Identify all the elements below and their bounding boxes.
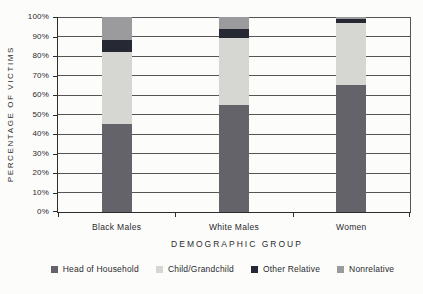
x-category-label-white-males: White Males	[175, 222, 292, 232]
y-tick-label: 60%	[1, 90, 49, 100]
y-tick-label: 50%	[1, 110, 49, 120]
x-category-label-women: Women	[293, 222, 410, 232]
y-tick-mark-80	[53, 56, 58, 57]
y-tick-mark-100	[53, 17, 58, 18]
stacked-bar-chart-figure: PERCENTAGE OF VICTIMS 0%10%20%30%40%50%6…	[0, 0, 423, 294]
bar-segment-white-males-other-relative	[219, 29, 249, 39]
bar-white-males	[219, 17, 249, 212]
x-tick-mark-2	[293, 212, 294, 217]
legend-swatch-other-relative	[251, 266, 258, 273]
legend-label-child-grandchild: Child/Grandchild	[168, 264, 234, 274]
x-tick-mark-1	[175, 212, 176, 217]
bar-women	[336, 17, 366, 212]
legend-label-nonrelative: Nonrelative	[349, 264, 394, 274]
x-tick-mark-0	[58, 212, 59, 217]
legend-item-child-grandchild: Child/Grandchild	[156, 264, 234, 274]
legend-label-head-of-household: Head of Household	[63, 264, 139, 274]
legend-swatch-head-of-household	[51, 266, 58, 273]
y-tick-mark-50	[53, 115, 58, 116]
bar-segment-women-child-grandchild	[336, 23, 366, 85]
y-tick-label: 70%	[1, 71, 49, 81]
y-tick-mark-90	[53, 37, 58, 38]
bar-segment-black-males-head-of-household	[102, 124, 132, 212]
bar-segment-white-males-head-of-household	[219, 105, 249, 212]
y-tick-mark-30	[53, 154, 58, 155]
bar-black-males	[102, 17, 132, 212]
x-category-label-black-males: Black Males	[58, 222, 175, 232]
bar-segment-women-head-of-household	[336, 85, 366, 212]
legend-item-head-of-household: Head of Household	[51, 264, 139, 274]
y-tick-label: 40%	[1, 129, 49, 139]
legend-swatch-child-grandchild	[156, 266, 163, 273]
y-tick-label: 10%	[1, 188, 49, 198]
bar-segment-black-males-other-relative	[102, 40, 132, 52]
y-tick-label: 0%	[1, 207, 49, 217]
y-tick-label: 100%	[1, 12, 49, 22]
x-axis-title: DEMOGRAPHIC GROUP	[57, 239, 417, 249]
bar-segment-white-males-child-grandchild	[219, 38, 249, 104]
legend: Head of HouseholdChild/GrandchildOther R…	[0, 264, 423, 274]
y-tick-label: 30%	[1, 149, 49, 159]
y-tick-mark-20	[53, 173, 58, 174]
bar-segment-white-males-nonrelative	[219, 17, 249, 29]
bar-segment-black-males-child-grandchild	[102, 52, 132, 124]
legend-swatch-nonrelative	[337, 266, 344, 273]
y-tick-mark-40	[53, 134, 58, 135]
x-tick-mark-3	[409, 212, 410, 217]
y-tick-mark-60	[53, 95, 58, 96]
bar-segment-black-males-nonrelative	[102, 17, 132, 40]
legend-item-nonrelative: Nonrelative	[337, 264, 394, 274]
y-tick-label: 20%	[1, 168, 49, 178]
legend-label-other-relative: Other Relative	[263, 264, 320, 274]
y-tick-mark-10	[53, 193, 58, 194]
y-tick-mark-70	[53, 76, 58, 77]
y-tick-label: 90%	[1, 32, 49, 42]
legend-item-other-relative: Other Relative	[251, 264, 320, 274]
plot-area: 0%10%20%30%40%50%60%70%80%90%100%Black M…	[57, 17, 411, 213]
y-tick-label: 80%	[1, 51, 49, 61]
